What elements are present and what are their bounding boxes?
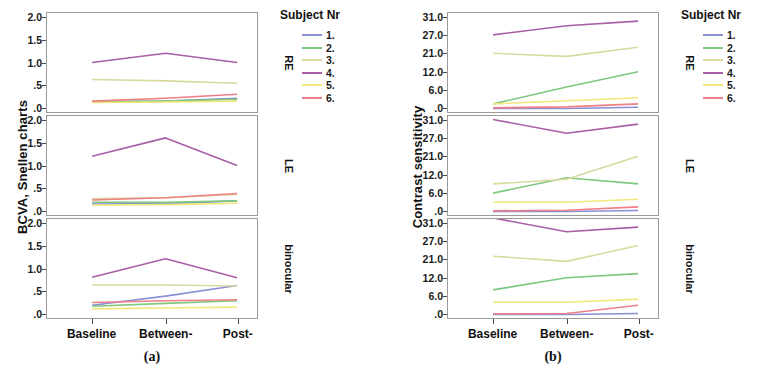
x-axis-label: Between-: [540, 327, 593, 341]
x-tick-mark: [567, 319, 568, 324]
panel-group-a: BCVA, Snellen charts.0.51.01.52.0RE.0.51…: [0, 0, 390, 375]
legend-item-3[interactable]: 3.: [302, 54, 340, 67]
x-tick-mark: [92, 319, 93, 324]
legend-swatch: [703, 34, 723, 36]
y-tick-label: 1.0: [27, 57, 42, 69]
legend-item-5[interactable]: 5.: [302, 79, 340, 92]
y-tick-label: 6.0: [428, 290, 443, 302]
y-tick-label: 2.0: [27, 217, 42, 229]
legend-swatch: [703, 72, 723, 74]
series-line-4: [493, 21, 638, 35]
series-line-3: [493, 47, 638, 56]
x-tick-mark: [639, 319, 640, 324]
legend-swatch: [302, 84, 322, 86]
y-tick-label: 12.0: [423, 169, 443, 181]
legend-item-1[interactable]: 1.: [703, 29, 741, 42]
legend-label: 5.: [326, 80, 335, 91]
series-line-4: [92, 259, 237, 278]
y-tick-label: .0: [434, 308, 443, 320]
legend-a: Subject Nr1.2.3.4.5.6.: [280, 8, 340, 104]
y-tick-labels-a-binocular: .0.51.01.52.0: [0, 218, 46, 319]
y-tick-label: .5: [33, 182, 42, 194]
y-tick-labels-a-RE: .0.51.01.52.0: [0, 12, 46, 113]
x-axis-label: Baseline: [468, 327, 517, 341]
legend-label: 3.: [727, 55, 736, 66]
series-lines: [448, 116, 658, 215]
plot-area-a-LE: [46, 115, 258, 216]
series-lines: [47, 219, 257, 318]
y-tick-label: 1.5: [27, 137, 42, 149]
row-label-binocular: binocular: [682, 240, 698, 298]
y-tick-label: .0: [33, 308, 42, 320]
y-tick-label: 12.0: [423, 66, 443, 78]
y-tick-labels-b-binocular: .06.012.021.027.031.0: [391, 218, 447, 319]
x-axis-label: Between-: [139, 327, 192, 341]
x-axis-labels: BaselineBetween-Post-: [0, 327, 390, 343]
y-tick-labels-a-LE: .0.51.01.52.0: [0, 115, 46, 216]
subfigure-caption-a: (a): [144, 349, 160, 365]
legend-swatch: [302, 34, 322, 36]
series-line-5: [493, 299, 638, 302]
series-lines: [47, 116, 257, 215]
y-tick-label: 1.0: [27, 160, 42, 172]
y-tick-label: 31.0: [423, 217, 443, 229]
legend-swatch: [302, 47, 322, 49]
legend-item-5[interactable]: 5.: [703, 79, 741, 92]
legend-item-4[interactable]: 4.: [703, 67, 741, 80]
series-line-4: [493, 120, 638, 134]
series-line-5: [493, 199, 638, 202]
series-line-3: [92, 285, 237, 286]
series-line-3: [493, 156, 638, 184]
subfigure-caption-b: (b): [544, 349, 561, 365]
plot-area-b-RE: [447, 12, 659, 113]
plot-area-a-binocular: [46, 218, 258, 319]
x-tick-mark: [166, 319, 167, 324]
plot-area-b-LE: [447, 115, 659, 216]
row-label-LE: LE: [682, 137, 698, 195]
y-tick-labels-b-LE: .06.012.021.027.031.0: [391, 115, 447, 216]
legend-item-2[interactable]: 2.: [302, 42, 340, 55]
y-tick-label: .5: [33, 285, 42, 297]
y-tick-label: 2.0: [27, 11, 42, 23]
legend-item-2[interactable]: 2.: [703, 42, 741, 55]
legend-swatch: [703, 59, 723, 61]
legend-label: 4.: [326, 68, 335, 79]
legend-item-6[interactable]: 6.: [703, 92, 741, 105]
y-tick-label: .5: [33, 79, 42, 91]
y-tick-labels-b-RE: .06.012.021.027.031.0: [391, 12, 447, 113]
series-line-4: [92, 138, 237, 166]
figure-container: BCVA, Snellen charts.0.51.01.52.0RE.0.51…: [0, 0, 781, 375]
y-tick-label: 12.0: [423, 272, 443, 284]
legend-title: Subject Nr: [681, 8, 741, 22]
panel-group-b: Contrast sensitivity.06.012.021.027.031.…: [391, 0, 781, 375]
legend-label: 3.: [326, 55, 335, 66]
legend-items: 1.2.3.4.5.6.: [703, 29, 741, 104]
series-lines: [47, 13, 257, 112]
x-axis-label: Baseline: [67, 327, 116, 341]
legend-label: 4.: [727, 68, 736, 79]
y-tick-label: 27.0: [423, 235, 443, 247]
legend-label: 2.: [727, 43, 736, 54]
y-tick-label: 27.0: [423, 29, 443, 41]
legend-swatch: [302, 72, 322, 74]
legend-item-3[interactable]: 3.: [703, 54, 741, 67]
series-line-4: [493, 219, 638, 232]
y-tick-label: 1.5: [27, 34, 42, 46]
y-tick-label: 2.0: [27, 114, 42, 126]
legend-item-1[interactable]: 1.: [302, 29, 340, 42]
y-tick-label: 6.0: [428, 84, 443, 96]
y-tick-label: 27.0: [423, 132, 443, 144]
y-tick-label: 1.0: [27, 263, 42, 275]
legend-item-6[interactable]: 6.: [302, 92, 340, 105]
legend-label: 1.: [727, 30, 736, 41]
legend-swatch: [302, 97, 322, 99]
legend-label: 5.: [727, 80, 736, 91]
y-tick-label: 21.0: [423, 150, 443, 162]
legend-label: 6.: [326, 93, 335, 104]
series-line-5: [92, 307, 237, 309]
series-line-2: [493, 274, 638, 290]
x-tick-mark: [238, 319, 239, 324]
legend-label: 6.: [727, 93, 736, 104]
legend-item-4[interactable]: 4.: [302, 67, 340, 80]
legend-swatch: [703, 84, 723, 86]
